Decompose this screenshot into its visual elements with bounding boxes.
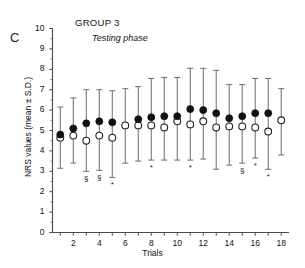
y-tick-label: 4 [29,145,45,155]
filled-circle-marker [57,131,64,138]
y-tick-label: 9 [29,43,45,53]
significance-marker: * [263,172,273,181]
filled-circle-marker [187,106,194,113]
filled-circle-marker [174,113,181,120]
x-tick-label: 12 [195,238,211,248]
x-tick-label: 6 [117,238,133,248]
open-circle-marker [122,122,129,129]
x-tick-label: 18 [273,238,289,248]
filled-circle-marker [226,115,233,122]
significance-marker: * [250,161,260,170]
x-tick-label: 4 [91,238,107,248]
open-circle-marker [109,134,116,141]
open-circle-marker [265,128,272,135]
significance-marker: § [81,174,91,183]
filled-circle-marker [83,120,90,127]
filled-circle-marker [213,110,220,117]
filled-circle-marker [161,113,168,120]
y-tick-label: 2 [29,186,45,196]
significance-marker: * [185,163,195,172]
open-circle-marker [148,122,155,129]
y-tick-label: 1 [29,206,45,216]
significance-marker: * [146,163,156,172]
plot-area [0,0,305,268]
open-circle-marker [161,124,168,131]
open-circle-marker [213,124,220,131]
x-tick-label: 14 [221,238,237,248]
x-tick-label: 2 [65,238,81,248]
filled-circle-marker [135,116,142,123]
x-tick-label: 8 [143,238,159,248]
open-circle-marker [83,137,90,144]
open-circle-marker [200,118,207,125]
filled-circle-marker [252,110,259,117]
open-circle-marker [278,117,285,124]
y-tick-label: 3 [29,165,45,175]
open-circle-marker [70,132,77,139]
y-tick-label: 8 [29,63,45,73]
filled-circle-marker [239,113,246,120]
filled-circle-marker [70,125,77,132]
axis-lines [49,29,289,236]
y-tick-label: 7 [29,84,45,94]
filled-circle-marker [109,119,116,126]
open-circle-marker [96,132,103,139]
open-circle-marker [226,123,233,130]
figure-panel: C GROUP 3 Testing phase NRS values (mean… [0,0,305,268]
y-tick-label: 5 [29,125,45,135]
significance-marker: * [107,180,117,189]
open-circle-marker [252,124,259,131]
data-points [57,106,285,145]
x-tick-label: 16 [247,238,263,248]
open-circle-marker [187,121,194,128]
y-tick-label: 6 [29,104,45,114]
filled-circle-marker [96,118,103,125]
y-tick-label: 10 [29,23,45,33]
filled-circle-marker [200,107,207,114]
x-tick-label: 10 [169,238,185,248]
y-tick-label: 0 [29,227,45,237]
significance-marker: § [94,173,104,182]
significance-marker: § [237,166,247,175]
filled-circle-marker [148,114,155,121]
filled-circle-marker [265,110,272,117]
open-circle-marker [239,123,246,130]
